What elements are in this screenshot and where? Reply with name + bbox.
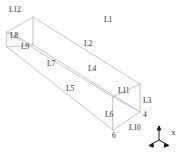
- edge-L7-long-mid: [33, 45, 140, 112]
- edge-label-L9: L9: [21, 43, 29, 51]
- axis-label-x: X: [171, 130, 176, 137]
- edge-label-L12: L12: [9, 6, 20, 14]
- edge-label-L11: L11: [118, 87, 129, 95]
- edge-label-L2: L2: [84, 40, 92, 48]
- axis-y-arrow: [149, 144, 153, 148]
- edge-label-L8: L8: [10, 32, 18, 40]
- node-label-6: 6: [112, 132, 116, 140]
- edge-label-L4: L4: [88, 65, 96, 73]
- edge-label-L3: L3: [143, 97, 151, 105]
- edge-label-L7: L7: [47, 60, 55, 68]
- edge-label-L10: L10: [129, 124, 140, 132]
- edge-label-L6: L6: [105, 111, 113, 119]
- edge-L5-long-bottom: [7, 47, 113, 130]
- edge-label-L1: L1: [104, 16, 112, 24]
- node-label-4: 4: [143, 111, 147, 119]
- axis-z-arrow: [157, 126, 161, 130]
- edge-L2-long-top-back: [33, 17, 140, 84]
- edge-label-L5: L5: [66, 85, 74, 93]
- far-face-inner-edge-a: [113, 97, 140, 112]
- figure-canvas: L12 L1 L8 L9 L2 L7 L4 L5 L11 L3 L6 L10 4…: [0, 0, 179, 152]
- axis-x-arrow: [164, 144, 169, 148]
